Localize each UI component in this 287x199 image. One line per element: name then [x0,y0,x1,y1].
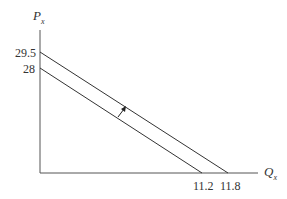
shift-arrow-icon [118,106,126,117]
chart-canvas [0,0,287,199]
y-axis-title: Px [33,9,45,26]
x-tick-11-8: 11.8 [220,180,241,192]
x-tick-11-2: 11.2 [193,180,214,192]
y-tick-28: 28 [23,63,35,75]
shifted-demand-line [40,52,228,173]
y-tick-29-5: 29.5 [15,47,36,59]
original-demand-line [40,68,202,173]
x-axis-title: Qx [264,165,277,182]
